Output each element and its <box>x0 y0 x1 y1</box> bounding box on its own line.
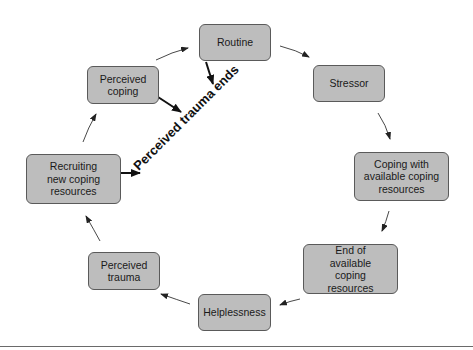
node-label: Perceived trauma <box>96 259 152 284</box>
node-label: Stressor <box>329 77 368 90</box>
node-label: Coping with available coping resources <box>357 158 446 196</box>
arrow-perceived-coping-to-routine <box>156 48 188 60</box>
arrow-perceived-coping-to-trauma-ends <box>158 97 181 112</box>
node-stressor: Stressor <box>313 65 385 102</box>
node-recruiting: Recruiting new coping resources <box>26 154 121 204</box>
arrow-helplessness-to-trauma <box>161 294 190 304</box>
node-label: End of available coping resources <box>314 244 388 294</box>
node-perceived-trauma: Perceived trauma <box>88 252 160 290</box>
node-coping-available: Coping with available coping resources <box>354 152 449 201</box>
node-label: Helplessness <box>203 306 265 319</box>
arrow-stressor-to-coping <box>378 113 390 139</box>
arrow-end-to-helplessness <box>280 299 300 305</box>
node-perceived-coping: Perceived coping <box>87 66 159 104</box>
arrow-coping-to-end <box>382 211 389 231</box>
node-helplessness: Helplessness <box>198 294 271 331</box>
arrow-routine-to-stressor <box>280 46 309 57</box>
node-end-resources: End of available coping resources <box>303 244 398 294</box>
node-label: Recruiting new coping resources <box>41 160 107 198</box>
arrow-recruiting-to-perceived-coping <box>83 114 96 142</box>
bottom-rule <box>0 346 473 347</box>
arrow-trauma-to-recruiting <box>86 216 100 241</box>
node-label: Perceived coping <box>95 73 151 98</box>
node-routine: Routine <box>199 24 271 61</box>
